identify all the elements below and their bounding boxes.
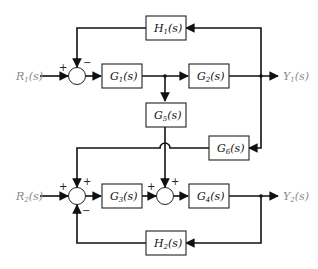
output-y2: Y2(s) [283, 190, 309, 204]
summing-junction-3 [157, 188, 174, 205]
block-g6: G6(s) [209, 136, 249, 160]
summing-junction-1 [69, 68, 86, 85]
svg-text:H2(s): H2(s) [153, 237, 182, 251]
sign-s1-top: − [83, 57, 91, 68]
sign-s2-left: + [59, 181, 67, 192]
svg-text:G1(s): G1(s) [110, 70, 138, 84]
svg-text:G6(s): G6(s) [217, 142, 245, 156]
input-r2: R2(s) [15, 190, 43, 204]
block-g2: G2(s) [189, 64, 229, 88]
block-g1: G1(s) [102, 64, 142, 88]
svg-text:G4(s): G4(s) [197, 190, 225, 204]
sign-s3-left: + [147, 181, 155, 192]
sign-s3-top: + [171, 176, 179, 187]
svg-text:G5(s): G5(s) [154, 109, 182, 123]
svg-text:H1(s): H1(s) [153, 22, 182, 36]
block-h2: H2(s) [146, 231, 186, 255]
sign-s2-bottom: − [82, 205, 90, 216]
block-g4: G4(s) [189, 184, 229, 208]
block-diagram: + − + + − + + H1(s) G1(s) G2(s) G5(s) G6… [0, 0, 318, 269]
sign-s2-top: + [83, 176, 91, 187]
input-r1: R1(s) [15, 70, 43, 84]
summing-junction-2 [69, 188, 86, 205]
junction-dot [259, 194, 263, 198]
junction-dot [163, 74, 167, 78]
svg-text:G3(s): G3(s) [110, 190, 138, 204]
block-g3: G3(s) [102, 184, 142, 208]
sign-s1-left: + [59, 62, 67, 73]
block-g5: G5(s) [146, 103, 186, 127]
block-h1: H1(s) [146, 16, 186, 40]
svg-text:G2(s): G2(s) [197, 70, 225, 84]
output-y1: Y1(s) [283, 70, 309, 84]
junction-dot [259, 74, 263, 78]
